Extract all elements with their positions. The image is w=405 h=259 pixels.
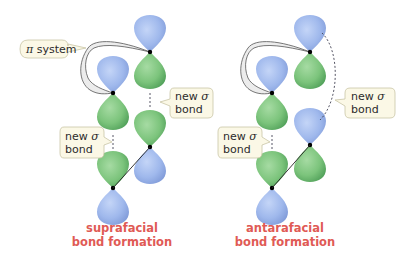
blue-lobe bbox=[97, 56, 129, 93]
antarafacial-caption-line1: antarafacial bbox=[246, 221, 324, 235]
svg-text:new σ: new σ bbox=[175, 90, 209, 103]
sigma-label-bond: bond bbox=[175, 103, 203, 116]
green-lobe bbox=[294, 52, 326, 89]
blue-lobe bbox=[256, 188, 288, 225]
suprafacial-caption-line1: suprafacial bbox=[86, 221, 158, 235]
green-lobe bbox=[256, 93, 288, 130]
blue-lobe bbox=[256, 56, 288, 93]
green-lobe bbox=[97, 93, 129, 130]
nucleus-dot bbox=[308, 50, 312, 54]
new-sigma-bond-callout: new σ bond bbox=[335, 88, 395, 118]
sigma-label-text: new bbox=[223, 130, 249, 143]
antarafacial-panel: new σ bond new σ bond antarafacial bond … bbox=[218, 15, 395, 249]
sigma-symbol: σ bbox=[201, 90, 209, 103]
nucleus-dot bbox=[111, 91, 115, 95]
svg-text:new σ: new σ bbox=[65, 130, 99, 143]
p-orbital-1 bbox=[134, 15, 166, 89]
blue-lobe bbox=[134, 15, 166, 52]
sigma-label-bond: bond bbox=[223, 143, 251, 156]
sigma-symbol: σ bbox=[377, 90, 385, 103]
new-sigma-bond-callout: new σ bond bbox=[160, 88, 213, 118]
p-orbital-1 bbox=[294, 15, 326, 89]
diagram-canvas: π system new σ bond new σ bond suprafaci… bbox=[0, 0, 405, 259]
blue-lobe bbox=[97, 188, 129, 225]
sigma-symbol: σ bbox=[91, 130, 99, 143]
green-lobe bbox=[134, 110, 166, 147]
pi-system-label: system bbox=[33, 43, 76, 56]
antarafacial-caption-line2: bond formation bbox=[235, 235, 335, 249]
blue-lobe bbox=[134, 147, 166, 184]
blue-lobe bbox=[294, 15, 326, 52]
suprafacial-panel: π system new σ bond new σ bond suprafaci… bbox=[20, 15, 213, 249]
blue-lobe bbox=[294, 108, 326, 145]
svg-text:π system: π system bbox=[25, 43, 77, 56]
sigma-symbol: σ bbox=[249, 130, 257, 143]
green-lobe bbox=[294, 145, 326, 182]
pi-system-callout: π system bbox=[20, 40, 86, 58]
new-sigma-bond-callout: new σ bond bbox=[60, 127, 112, 158]
sigma-label-text: new bbox=[65, 130, 91, 143]
suprafacial-caption-line2: bond formation bbox=[72, 235, 172, 249]
sigma-label-text: new bbox=[175, 90, 201, 103]
sigma-label-bond: bond bbox=[351, 103, 379, 116]
svg-text:new σ: new σ bbox=[351, 90, 385, 103]
nucleus-dot bbox=[148, 50, 152, 54]
orbital-diagram: π system new σ bond new σ bond suprafaci… bbox=[0, 0, 405, 259]
nucleus-dot bbox=[270, 91, 274, 95]
svg-text:new σ: new σ bbox=[223, 130, 257, 143]
sigma-label-bond: bond bbox=[65, 143, 93, 156]
sigma-label-text: new bbox=[351, 90, 377, 103]
green-lobe bbox=[134, 52, 166, 89]
new-sigma-bond-callout: new σ bond bbox=[218, 127, 270, 158]
